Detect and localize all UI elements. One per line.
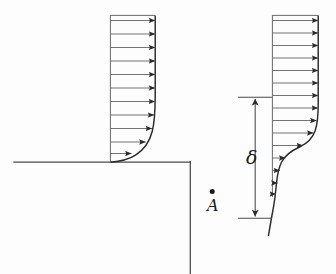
left-profile-arrows	[110, 21, 155, 154]
left-profile-envelope-curve	[111, 15, 156, 162]
point-a-group	[210, 189, 215, 194]
right-profile-envelope-curve	[268, 15, 318, 236]
figure-canvas	[0, 0, 336, 274]
point-a-dot-icon	[210, 189, 215, 194]
delta-dimension-group	[238, 97, 272, 218]
right-velocity-profile-group	[268, 15, 318, 236]
left-velocity-profile-group	[110, 15, 155, 162]
wall-plate-group	[14, 162, 190, 274]
boundary-layer-figure: δ A	[0, 0, 336, 274]
